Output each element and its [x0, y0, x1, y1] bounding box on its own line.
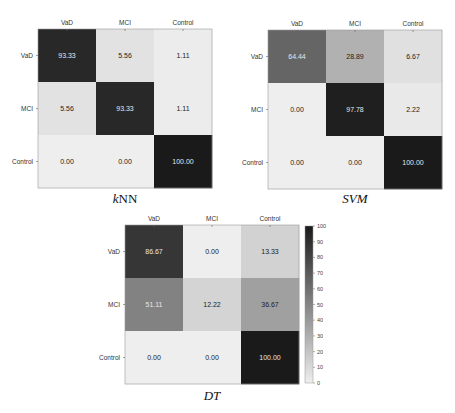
colorbar-tick-label: 50 [317, 302, 323, 308]
y-tick-label: Control [242, 159, 264, 166]
colorbar-tick-label: 40 [317, 317, 323, 323]
colorbar-tick-label: 90 [317, 239, 323, 245]
cell-value-label: 36.67 [261, 301, 279, 308]
cell-value-label: 51.11 [146, 301, 163, 308]
colorbar-gradient [305, 226, 313, 383]
cell-value-label: 1.11 [176, 105, 189, 112]
y-tick-label: Control [12, 158, 34, 165]
cell-value-label: 97.78 [346, 106, 364, 113]
cell-value-label: 0.00 [348, 159, 362, 166]
panel-title: DT [203, 388, 221, 403]
x-tick-label: Control [260, 215, 282, 222]
cell-value-label: 93.33 [58, 52, 76, 59]
colorbar: 0102030405060708090100 [305, 223, 326, 386]
cell-value-label: 0.00 [290, 106, 304, 113]
confusion-matrix-svm: 64.4428.896.670.0097.782.220.000.00100.0… [242, 20, 442, 206]
colorbar-tick-label: 30 [317, 333, 323, 339]
x-tick-label: VaD [291, 20, 303, 27]
colorbar-tick-label: 80 [317, 254, 323, 260]
cell-value-label: 5.56 [118, 52, 132, 59]
confusion-matrix-knn: 93.335.561.115.5693.331.110.000.00100.00… [12, 19, 212, 206]
cell-value-label: 100.00 [172, 158, 194, 165]
cell-value-label: 64.44 [288, 53, 306, 60]
cell-value-label: 100.00 [402, 159, 424, 166]
y-tick-label: VaD [251, 53, 263, 60]
y-tick-label: Control [99, 354, 121, 361]
y-tick-label: MCI [108, 301, 120, 308]
cell-value-label: 100.00 [259, 354, 281, 361]
cell-value-label: 2.22 [406, 106, 420, 113]
cell-value-label: 1.11 [176, 52, 189, 59]
x-tick-label: VaD [148, 215, 160, 222]
cell-value-label: 28.89 [346, 53, 364, 60]
cell-value-label: 86.67 [145, 248, 163, 255]
y-tick-label: VaD [108, 248, 120, 255]
y-tick-label: MCI [21, 105, 33, 112]
cell-value-label: 5.56 [60, 105, 74, 112]
colorbar-tick-label: 10 [317, 364, 323, 370]
cell-value-label: 6.67 [406, 53, 420, 60]
cell-value-label: 0.00 [147, 354, 161, 361]
confusion-matrix-dt: 86.670.0013.3351.1112.2236.670.000.00100… [99, 215, 326, 403]
cell-value-label: 0.00 [118, 158, 132, 165]
x-tick-label: MCI [206, 215, 218, 222]
y-tick-label: VaD [21, 52, 33, 59]
cell-value-label: 12.22 [203, 301, 221, 308]
cell-value-label: 0.00 [205, 248, 219, 255]
y-tick-label: MCI [251, 106, 263, 113]
panel-title: SVM [342, 191, 368, 206]
x-tick-label: Control [403, 20, 425, 27]
panel-title: kNN [113, 191, 138, 206]
x-tick-label: Control [173, 19, 195, 26]
colorbar-tick-label: 100 [317, 223, 326, 229]
cell-value-label: 13.33 [261, 248, 279, 255]
x-tick-label: MCI [119, 19, 131, 26]
colorbar-tick-label: 20 [317, 349, 323, 355]
confusion-matrix-figure: 93.335.561.115.5693.331.110.000.00100.00… [0, 0, 455, 413]
cell-value-label: 0.00 [60, 158, 74, 165]
cell-value-label: 93.33 [116, 105, 134, 112]
x-tick-label: MCI [349, 20, 361, 27]
x-tick-label: VaD [61, 19, 73, 26]
colorbar-tick-label: 0 [317, 380, 320, 386]
colorbar-tick-label: 60 [317, 286, 323, 292]
cell-value-label: 0.00 [205, 354, 219, 361]
cell-value-label: 0.00 [290, 159, 304, 166]
colorbar-tick-label: 70 [317, 270, 323, 276]
